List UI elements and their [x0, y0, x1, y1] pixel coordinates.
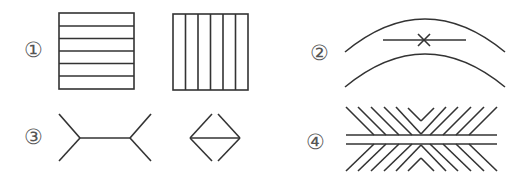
vertical-stripe-square [173, 14, 248, 90]
arcs-with-cross [345, 19, 505, 87]
muller-lyer-arrowheads [190, 114, 240, 161]
figures-canvas [0, 0, 525, 187]
muller-lyer-outward-fins [59, 114, 151, 161]
horizontal-stripe-square [59, 13, 134, 89]
hering-parallel-lines [346, 107, 497, 171]
